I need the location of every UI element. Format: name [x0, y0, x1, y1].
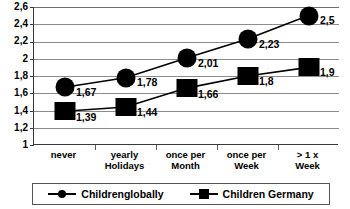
x-axis-label: never: [33, 149, 94, 160]
data-point-marker: [299, 6, 318, 25]
x-axis-label-line: Week: [277, 160, 338, 171]
y-axis-tick: [30, 42, 34, 43]
circle-marker-icon: [48, 188, 76, 200]
x-axis-label-line: > 1 x: [277, 149, 338, 160]
x-axis-label: yearly Holidays: [94, 149, 155, 171]
data-point-marker: [55, 78, 74, 97]
x-axis-label: once per Week: [216, 149, 277, 171]
y-axis-tick: [30, 7, 34, 8]
y-axis-tick: [30, 24, 34, 25]
y-axis-tick: [30, 128, 34, 129]
gridline: [34, 128, 339, 129]
x-axis-label-line: once per: [216, 149, 277, 160]
x-axis-label-line: Holidays: [94, 160, 155, 171]
data-label: 2,5: [320, 15, 335, 26]
y-axis-label: 2: [0, 54, 28, 64]
data-label: 1,8: [259, 76, 274, 87]
data-point-marker: [237, 67, 258, 85]
square-marker-icon: [190, 188, 218, 200]
data-label: 1,9: [320, 67, 335, 78]
gridline: [34, 24, 339, 25]
y-axis-label: 1,6: [0, 88, 28, 98]
y-axis-label: 1,8: [0, 71, 28, 81]
data-label: 1,66: [198, 89, 218, 100]
x-axis-label-line: Week: [216, 160, 277, 171]
data-point-marker: [238, 30, 257, 49]
x-axis-label-line: never: [33, 149, 94, 160]
legend-item-children-germany[interactable]: Children Germany: [190, 188, 314, 200]
legend-label: Childrenglobally: [81, 188, 163, 200]
data-label: 1,67: [76, 87, 96, 98]
legend-item-childrenglobally[interactable]: Childrenglobally: [48, 188, 163, 200]
plot-area: 1,67 1,78 2,01 2,23 2,5 1,39 1,44 1,66 1…: [33, 7, 338, 145]
y-axis-label: 2,2: [0, 36, 28, 46]
data-label: 1,78: [137, 77, 157, 88]
y-axis-label: 2,4: [0, 19, 28, 29]
x-axis-label: > 1 x Week: [277, 149, 338, 171]
y-axis-label: 1,4: [0, 106, 28, 116]
gridline: [34, 7, 339, 8]
chart-legend: Childrenglobally Children Germany: [32, 183, 330, 205]
data-label: 2,23: [259, 39, 279, 50]
data-point-marker: [177, 48, 196, 67]
y-axis-tick: [30, 59, 34, 60]
x-axis-label-line: once per: [155, 149, 216, 160]
data-label: 1,44: [137, 107, 157, 118]
gridline: [34, 42, 339, 43]
data-point-marker: [176, 79, 197, 97]
y-axis-tick: [30, 111, 34, 112]
chart-container: 2,6 2,4 2,2 2 1,8 1,6 1,4 1,2 1: [0, 0, 350, 209]
y-axis-tick: [30, 145, 34, 146]
data-label: 2,01: [198, 58, 218, 69]
y-axis-label: 1,2: [0, 123, 28, 133]
x-axis-label: once per Month: [155, 149, 216, 171]
y-axis-tick: [30, 76, 34, 77]
data-point-marker: [115, 98, 136, 116]
gridline: [34, 76, 339, 77]
data-label: 1,39: [76, 112, 96, 123]
y-axis-label: 1: [0, 140, 28, 150]
y-axis-tick: [30, 93, 34, 94]
data-point-marker: [298, 58, 319, 76]
legend-label: Children Germany: [223, 188, 314, 200]
data-point-marker: [54, 102, 75, 120]
x-axis-label-line: Month: [155, 160, 216, 171]
data-point-marker: [116, 68, 135, 87]
y-axis-label: 2,6: [0, 2, 28, 12]
x-axis-label-line: yearly: [94, 149, 155, 160]
